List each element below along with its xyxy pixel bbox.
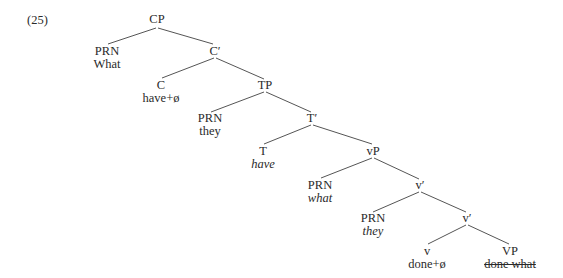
word-they: they xyxy=(199,125,221,138)
branch-vp-prn xyxy=(321,158,372,178)
node-c-bar: C′ xyxy=(209,45,220,58)
word-what-trace: what xyxy=(308,192,332,205)
node-t-bar: T′ xyxy=(307,112,317,125)
branch-cp-prn xyxy=(108,28,156,44)
node-little-vp: vP xyxy=(366,145,379,158)
branch-vbar-prn xyxy=(373,192,419,212)
word-have-null: have+ø xyxy=(143,92,180,105)
node-v-bar-upper: v′ xyxy=(416,179,425,192)
word-done-null: done+ø xyxy=(408,258,446,271)
tree-branches xyxy=(0,0,563,278)
branch-vbar-vbar xyxy=(421,192,466,212)
branch-tp-prn xyxy=(211,92,264,112)
node-tp: TP xyxy=(258,79,273,92)
word-they-trace: they xyxy=(363,225,384,238)
example-number: (25) xyxy=(27,13,48,28)
word-done-what-deleted: done what xyxy=(484,258,536,271)
node-v-bar-lower: v′ xyxy=(463,212,472,225)
branch-tbar-t xyxy=(264,125,311,144)
branch-tbar-vp xyxy=(313,125,372,144)
branch-vbar-VP xyxy=(468,225,509,244)
word-have-trace: have xyxy=(251,158,275,171)
branch-vbar-v xyxy=(428,225,466,244)
branch-vp-vbar xyxy=(374,158,419,179)
branch-cbar-tp xyxy=(216,58,264,79)
branch-cbar-c xyxy=(162,58,214,78)
branch-cp-cbar xyxy=(158,28,213,44)
node-cp: CP xyxy=(149,13,164,26)
word-what: What xyxy=(93,58,120,71)
branch-tp-tbar xyxy=(266,92,311,112)
